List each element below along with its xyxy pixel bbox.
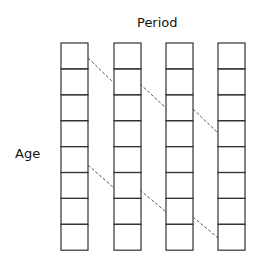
age-cell bbox=[166, 95, 193, 121]
age-cell bbox=[166, 198, 193, 224]
age-cell bbox=[114, 198, 141, 224]
age-cell bbox=[166, 224, 193, 250]
age-cell bbox=[218, 69, 245, 95]
age-cell bbox=[218, 224, 245, 250]
age-cell bbox=[218, 95, 245, 121]
age-cell bbox=[166, 69, 193, 95]
period-column bbox=[166, 43, 193, 250]
cohort-dashed-line bbox=[140, 190, 166, 212]
cohort-dashed-line bbox=[193, 217, 218, 238]
age-cell bbox=[61, 95, 88, 121]
age-cell bbox=[114, 147, 141, 173]
age-cell bbox=[218, 198, 245, 224]
period-column bbox=[61, 43, 88, 250]
age-cell bbox=[61, 224, 88, 250]
age-cell bbox=[114, 224, 141, 250]
period-column bbox=[218, 43, 245, 250]
cohort-dashed-line bbox=[88, 165, 114, 188]
period-column bbox=[114, 43, 141, 250]
age-cell bbox=[61, 121, 88, 147]
age-cell bbox=[61, 69, 88, 95]
age-cell bbox=[114, 173, 141, 199]
age-cell bbox=[166, 43, 193, 69]
cohort-dashed-line bbox=[140, 84, 166, 108]
age-cell bbox=[114, 43, 141, 69]
age-cell bbox=[61, 198, 88, 224]
age-cell bbox=[166, 173, 193, 199]
age-cell bbox=[218, 43, 245, 69]
age-cell bbox=[61, 43, 88, 69]
age-cell bbox=[218, 147, 245, 173]
age-cell bbox=[114, 69, 141, 95]
lexis-diagram bbox=[0, 0, 257, 265]
age-cell bbox=[218, 121, 245, 147]
age-cell bbox=[218, 173, 245, 199]
age-cell bbox=[166, 121, 193, 147]
age-cell bbox=[61, 173, 88, 199]
age-cell bbox=[166, 147, 193, 173]
cohort-dashed-line bbox=[88, 58, 114, 83]
age-cell bbox=[61, 147, 88, 173]
age-cell bbox=[114, 95, 141, 121]
age-cell bbox=[114, 121, 141, 147]
cohort-dashed-line bbox=[193, 109, 218, 133]
